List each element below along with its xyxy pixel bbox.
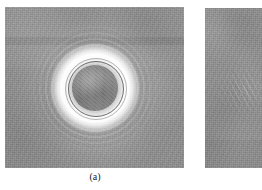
panel-a-mottle-texture [5,7,184,168]
diffraction-ring-outer [65,58,127,120]
panel-b-band-top [205,8,262,34]
panel-a-caption: (a) [55,171,135,183]
figure-panel-a [5,7,184,168]
panel-b-mottle-texture [205,8,262,168]
figure-root: (a) [0,0,262,190]
diffraction-core [72,65,118,111]
panel-b-band-bottom [205,140,262,168]
panel-b-grain-texture [205,8,262,168]
panel-a-grain-texture [5,7,184,168]
diffraction-ring-inner [68,61,124,117]
diffraction-bright-halo [49,42,141,134]
panel-a-band-lower [5,45,184,67]
diffraction-outer-fringes [30,23,160,153]
panel-b-diagonal-streaks [213,56,262,126]
diffraction-outer-halo [9,7,181,168]
panel-a-band-mid [5,37,184,45]
figure-panel-b [205,8,262,168]
panel-a-band-top [5,7,184,37]
diffraction-core-grain [72,65,118,111]
